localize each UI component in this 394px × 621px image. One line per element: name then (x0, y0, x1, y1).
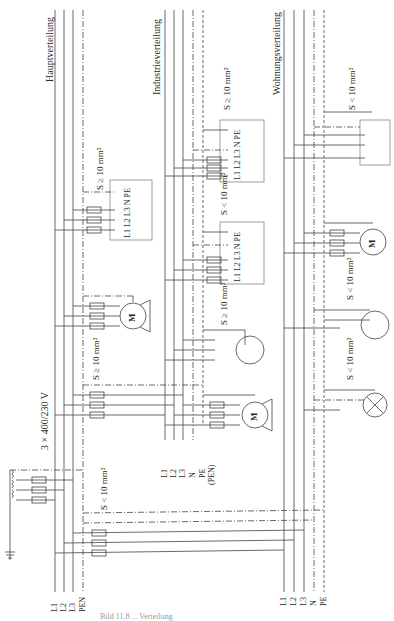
terminal-labels: L1 L2 L3 N PE (234, 232, 242, 282)
terminal-labels: L1 L2 L3 N PE (124, 188, 132, 238)
bus-label-n: N (189, 472, 197, 478)
title-industrieverteilung: Industrieverteilung (152, 19, 162, 95)
cross-section-label: S < 10 mm² (348, 67, 357, 110)
bus-label-l3: L3 (69, 603, 77, 612)
motor-label: M (128, 314, 137, 323)
bus-label-l2: L2 (290, 597, 298, 606)
bus-label-pe: PE (320, 597, 328, 606)
socket-symbol (236, 336, 264, 364)
bus-label-pen: (PEN) (208, 465, 216, 485)
bus-label-l1: L1 (280, 597, 288, 606)
motor-label: M (368, 240, 377, 249)
cross-section-label: S < 10 mm² (346, 337, 355, 380)
cross-section-label: S < 10 mm² (100, 467, 109, 510)
bus-label-pen: PEN (79, 597, 87, 612)
cross-section-label: S ≥ 10 mm² (220, 283, 229, 325)
motor-label: M (250, 413, 259, 422)
bus-label-pe: PE (199, 469, 207, 478)
title-wohnungsverteilung: Wohnungsverteilung (272, 12, 282, 95)
cross-section-label: S ≥ 10 mm² (96, 148, 105, 190)
terminal-labels: L1 L2 L3 N PE (234, 130, 242, 180)
bus-label-l2: L2 (60, 603, 68, 612)
title-hauptverteilung: Hauptverteilung (45, 17, 55, 82)
bus-label-l1: L1 (161, 469, 169, 478)
cross-section-label: S < 10 mm² (220, 172, 229, 215)
bus-label-l3: L3 (300, 597, 308, 606)
bus-label-l1: L1 (51, 603, 59, 612)
bus-label-l2: L2 (170, 469, 178, 478)
cross-section-label: S ≥ 10 mm² (223, 68, 232, 110)
cross-section-label: S < 10 mm² (346, 257, 355, 300)
supply-voltage-label: 3 × 400/230 V (40, 392, 50, 450)
bus-label-n: N (310, 600, 318, 606)
figure-caption: Bild 11.8 ... Verteilung (100, 612, 173, 621)
bus-label-l3: L3 (179, 469, 187, 478)
cross-section-label: S ≥ 10 mm² (92, 338, 101, 380)
